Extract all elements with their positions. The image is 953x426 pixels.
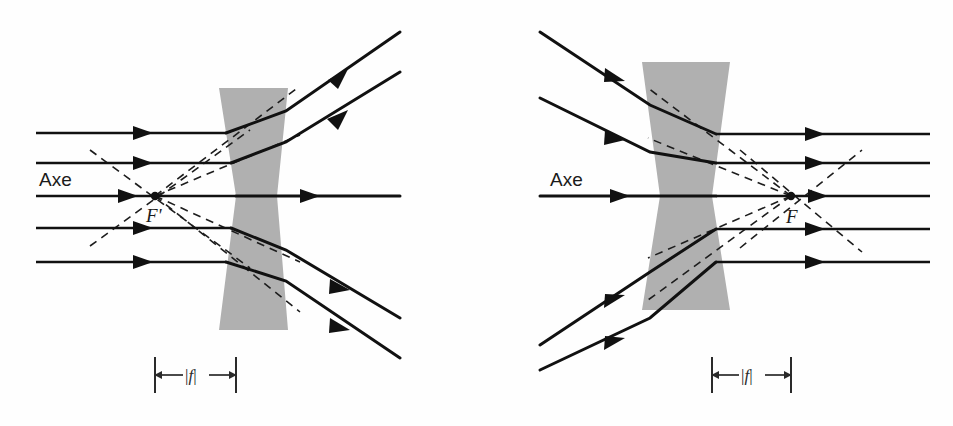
page-background [0,0,953,426]
focal-point-dot-right [787,192,795,200]
dimension-label-right: |f| [741,366,753,385]
focal-point-dot-left [151,192,159,200]
dimension-label-left: |f| [185,366,197,385]
focal-point-label-left: F' [145,205,163,226]
axis-label-left: Axe [39,169,72,190]
axis-label-right: Axe [550,169,583,190]
ray-diagram-canvas: Axe F' |f| [0,0,953,426]
optics-figure: Axe F' |f| [0,0,953,426]
focal-point-label-right: F [785,206,798,227]
